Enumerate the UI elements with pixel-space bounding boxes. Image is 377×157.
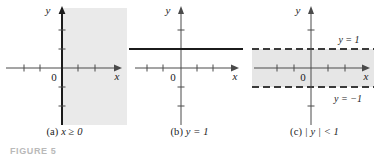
graph-c: y x 0 y = 1 y = −1: [252, 0, 377, 125]
figure-panel-a: y x 0 (a) x ≥ 0: [2, 0, 127, 157]
y-axis-label-b: y: [165, 4, 171, 16]
graph-b: y x 0: [127, 0, 252, 125]
plot-area-b: y x 0: [127, 0, 252, 125]
y-axis-label-a: y: [45, 4, 51, 16]
y-axis-arrow-c: [308, 6, 314, 14]
origin-label-c: 0: [300, 71, 306, 83]
figure-panel-b: y x 0 (b) y = 1: [127, 0, 252, 157]
plot-area-c: y x 0 y = 1 y = −1: [252, 0, 377, 125]
caption-math-a: x ≥ 0: [61, 126, 82, 137]
figure-number-label: FIGURE 5: [10, 146, 56, 156]
x-axis-label-c: x: [363, 70, 369, 82]
caption-tag-b: (b): [170, 126, 183, 137]
y-axis-label-c: y: [295, 4, 301, 16]
caption-math-b: y = 1: [186, 126, 209, 137]
caption-math-c: | y | < 1: [305, 126, 339, 137]
label-y-equals-neg1-c: y = −1: [333, 93, 362, 104]
caption-tag-a: (a): [46, 126, 58, 137]
x-axis-label-a: x: [114, 70, 120, 82]
y-axis-arrow-b: [178, 6, 184, 14]
plot-area-a: y x 0: [2, 0, 127, 125]
figure-panel-c: y x 0 y = 1 y = −1 (c) | y | < 1: [252, 0, 377, 157]
label-y-equals-1-c: y = 1: [337, 34, 359, 45]
caption-tag-c: (c): [290, 126, 302, 137]
origin-label-a: 0: [51, 71, 57, 83]
caption-b: (b) y = 1: [127, 126, 252, 137]
origin-label-b: 0: [170, 71, 176, 83]
caption-a: (a) x ≥ 0: [2, 126, 127, 137]
graph-a: y x 0: [2, 0, 127, 125]
x-axis-label-b: x: [232, 70, 238, 82]
caption-c: (c) | y | < 1: [252, 126, 377, 137]
figure-container: y x 0 (a) x ≥ 0: [0, 0, 377, 157]
